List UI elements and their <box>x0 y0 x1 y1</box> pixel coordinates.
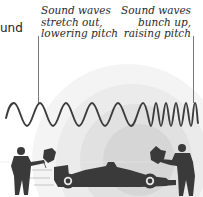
right-caption-line-3: raising pitch <box>121 28 191 40</box>
cropped-heading-fragment: und <box>0 21 23 35</box>
right-caption: Sound waves bunch up, raising pitch <box>121 5 191 40</box>
right-caption-line-1: Sound waves <box>121 5 191 17</box>
left-caption: Sound waves stretch out, lowering pitch <box>41 5 118 40</box>
left-caption-line-1: Sound waves <box>41 5 118 17</box>
doppler-diagram: und Sound waves stretch out, lowering pi… <box>0 0 203 197</box>
left-caption-line-3: lowering pitch <box>41 28 118 40</box>
